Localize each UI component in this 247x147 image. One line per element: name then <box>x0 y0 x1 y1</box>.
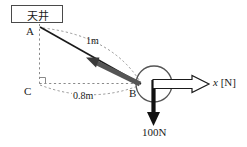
force-unit-n: N <box>224 76 232 88</box>
physics-diagram-canvas: 天井 A C B 1m 0.8m 100N x [N] <box>0 0 247 147</box>
force-label-weight: 100N <box>142 127 166 138</box>
point-label-b: B <box>129 88 136 99</box>
force-unit-bracket: [N] <box>218 76 236 88</box>
right-angle-marker-icon <box>40 78 46 84</box>
point-label-c: C <box>24 86 31 97</box>
dimension-label-1m: 1m <box>86 36 99 46</box>
force-label-applied: x [N] <box>213 77 236 88</box>
dimension-label-08m: 0.8m <box>72 91 94 101</box>
point-label-a: A <box>26 26 34 37</box>
ceiling-label: 天井 <box>12 6 64 24</box>
ceiling-box: 天井 <box>11 5 63 23</box>
applied-force-arrow <box>153 76 209 93</box>
